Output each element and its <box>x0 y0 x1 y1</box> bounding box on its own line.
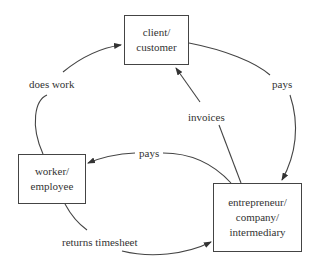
node-client-customer: client/ customer <box>124 15 189 65</box>
node-worker-employee: worker/ employee <box>18 154 86 204</box>
edge-label-pays-client: pays <box>270 78 294 91</box>
edge-returns-timesheet-upper <box>65 204 87 230</box>
edge-label-does-work: does work <box>27 78 77 91</box>
edge-label-returns-timesheet: returns timesheet <box>60 236 139 249</box>
edge-pays-client-upper <box>189 43 270 75</box>
node-label-line: customer <box>136 40 176 55</box>
node-entrepreneur-company-intermediary: entrepreneur/ company/ intermediary <box>213 183 302 252</box>
node-label-line: company/ <box>236 210 279 225</box>
node-label-line: intermediary <box>229 225 285 240</box>
edge-does-work-upper <box>63 45 121 72</box>
edge-pays-client-lower <box>282 95 296 180</box>
edge-does-work <box>35 95 47 154</box>
edge-invoices-upper <box>176 68 200 102</box>
node-label-line: entrepreneur/ <box>228 195 287 210</box>
node-label-line: client/ <box>143 25 171 40</box>
node-label-line: employee <box>31 179 74 194</box>
edge-pays-worker-right <box>163 153 231 183</box>
edge-label-invoices: invoices <box>186 111 227 124</box>
edge-pays-worker-left <box>88 153 135 163</box>
node-label-line: worker/ <box>35 164 69 179</box>
edge-label-pays-worker: pays <box>137 147 161 160</box>
